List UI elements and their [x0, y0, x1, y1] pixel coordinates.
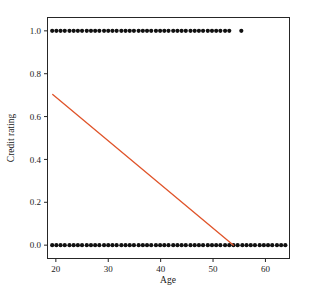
data-point: [93, 29, 97, 33]
data-point: [123, 243, 127, 247]
data-point: [239, 29, 243, 33]
data-point: [223, 29, 227, 33]
data-point: [188, 29, 192, 33]
data-series: [50, 29, 243, 33]
data-point: [76, 29, 80, 33]
data-point: [63, 29, 67, 33]
data-point: [171, 243, 175, 247]
data-point: [206, 29, 210, 33]
data-point: [175, 29, 179, 33]
data-series: [50, 243, 287, 247]
x-axis-title: Age: [160, 275, 176, 285]
data-point: [171, 29, 175, 33]
data-point: [218, 243, 222, 247]
data-point: [279, 243, 283, 247]
data-point: [145, 243, 149, 247]
scatter-plot: 0.00.20.40.60.81.0 2030405060 Age Credit…: [0, 0, 310, 300]
data-point: [283, 243, 287, 247]
data-point: [201, 243, 205, 247]
data-point: [210, 29, 214, 33]
data-point: [132, 29, 136, 33]
data-point: [145, 29, 149, 33]
x-tick-label: 60: [261, 264, 271, 274]
data-point: [50, 243, 54, 247]
data-point: [214, 29, 218, 33]
x-tick-label: 30: [104, 264, 114, 274]
data-point: [106, 243, 110, 247]
data-point: [80, 243, 84, 247]
data-point: [236, 243, 240, 247]
data-point: [85, 243, 89, 247]
x-axis-tick-labels: 2030405060: [51, 264, 270, 274]
data-point: [249, 243, 253, 247]
data-point: [97, 29, 101, 33]
figure-canvas: 0.00.20.40.60.81.0 2030405060 Age Credit…: [0, 0, 310, 300]
data-point: [166, 29, 170, 33]
data-point: [184, 29, 188, 33]
data-point: [58, 243, 62, 247]
data-point: [193, 29, 197, 33]
data-point: [115, 29, 119, 33]
data-point: [67, 29, 71, 33]
data-point: [162, 243, 166, 247]
data-point: [123, 29, 127, 33]
data-point: [244, 243, 248, 247]
data-point: [197, 243, 201, 247]
data-point: [188, 243, 192, 247]
y-tick-label: 0.2: [30, 197, 41, 207]
data-point: [227, 29, 231, 33]
data-point: [184, 243, 188, 247]
data-point: [158, 243, 162, 247]
y-axis-tick-labels: 0.00.20.40.60.81.0: [30, 26, 42, 250]
data-point: [258, 243, 262, 247]
data-point: [80, 29, 84, 33]
data-point: [149, 243, 153, 247]
data-point: [97, 243, 101, 247]
data-point: [67, 243, 71, 247]
data-point: [137, 243, 141, 247]
data-point: [218, 29, 222, 33]
data-point: [110, 243, 114, 247]
data-point: [93, 243, 97, 247]
data-point: [175, 243, 179, 247]
data-point: [158, 29, 162, 33]
data-points-group: [50, 29, 287, 247]
data-point: [180, 29, 184, 33]
data-point: [89, 243, 93, 247]
data-point: [102, 29, 106, 33]
x-tick-label: 20: [51, 264, 61, 274]
data-point: [154, 29, 158, 33]
fit-line: [53, 95, 234, 246]
data-point: [154, 243, 158, 247]
data-point: [76, 243, 80, 247]
data-point: [270, 243, 274, 247]
data-point: [110, 29, 114, 33]
data-point: [141, 243, 145, 247]
data-point: [266, 243, 270, 247]
data-point: [180, 243, 184, 247]
data-point: [106, 29, 110, 33]
data-point: [137, 29, 141, 33]
x-tick-label: 40: [156, 264, 166, 274]
plot-frame: [48, 18, 290, 259]
data-point: [50, 29, 54, 33]
data-point: [54, 243, 58, 247]
data-point: [214, 243, 218, 247]
data-point: [206, 243, 210, 247]
data-point: [89, 29, 93, 33]
data-point: [141, 29, 145, 33]
data-point: [119, 243, 123, 247]
data-point: [275, 243, 279, 247]
data-point: [115, 243, 119, 247]
y-tick-label: 0.0: [30, 240, 42, 250]
data-point: [166, 243, 170, 247]
y-tick-label: 0.6: [30, 112, 42, 122]
data-point: [128, 243, 132, 247]
data-point: [132, 243, 136, 247]
data-point: [253, 243, 257, 247]
data-point: [58, 29, 62, 33]
data-point: [201, 29, 205, 33]
data-point: [72, 243, 76, 247]
y-axis-title: Credit rating: [6, 114, 16, 163]
data-point: [193, 243, 197, 247]
